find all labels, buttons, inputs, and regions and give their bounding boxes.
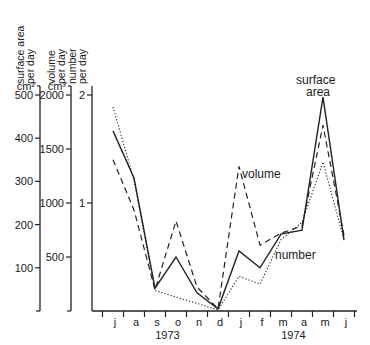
x-tick-label: a bbox=[301, 316, 308, 328]
annotation-surface-area: area bbox=[306, 85, 330, 99]
year-label-1973: 1973 bbox=[155, 329, 179, 341]
surface-tick-label: 500 bbox=[15, 89, 33, 101]
x-tick-label: m bbox=[320, 316, 329, 328]
x-tick-label: o bbox=[175, 316, 181, 328]
volume-tick-label: 1500 bbox=[40, 143, 64, 155]
surface-tick-label: 100 bbox=[15, 262, 33, 274]
number-axis-title: numberper day bbox=[66, 48, 88, 84]
x-tick-label: f bbox=[260, 316, 264, 328]
volume-tick-label: 2000 bbox=[40, 89, 64, 101]
annotation-volume: volume bbox=[242, 167, 281, 181]
chart: surface areaper daycm²100200300400500vol… bbox=[0, 0, 370, 345]
number-tick-label: 1 bbox=[79, 197, 85, 209]
number-tick-label: 2 bbox=[79, 89, 85, 101]
surface-tick-label: 300 bbox=[15, 175, 33, 187]
svg-text:per day: per day bbox=[24, 48, 36, 84]
volume-axis-title: volumeper day bbox=[45, 48, 67, 84]
x-tick-label: j bbox=[113, 316, 116, 328]
x-tick-label: a bbox=[133, 316, 140, 328]
volume-tick-label: 1000 bbox=[40, 197, 64, 209]
x-tick-label: m bbox=[278, 316, 287, 328]
x-axis: jasondjfmamj19731974 bbox=[92, 311, 357, 341]
x-tick-label: s bbox=[154, 316, 160, 328]
volume-tick-label: 500 bbox=[46, 251, 64, 263]
x-tick-label: d bbox=[217, 316, 223, 328]
surface-tick-label: 400 bbox=[15, 132, 33, 144]
annotation-number: number bbox=[275, 248, 316, 262]
x-tick-label: n bbox=[196, 316, 202, 328]
x-tick-label: j bbox=[344, 316, 347, 328]
series bbox=[113, 97, 344, 310]
y-axes: surface areaper daycm²100200300400500vol… bbox=[14, 25, 92, 311]
surface-tick-label: 200 bbox=[15, 219, 33, 231]
svg-text:per day: per day bbox=[76, 48, 88, 84]
year-label-1974: 1974 bbox=[281, 329, 305, 341]
surface-axis-title: surface areaper day bbox=[14, 25, 36, 84]
x-tick-label: j bbox=[239, 316, 242, 328]
series-surface bbox=[113, 97, 344, 309]
